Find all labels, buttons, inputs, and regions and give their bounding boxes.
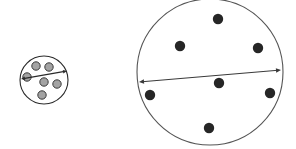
small-circle-group (20, 56, 68, 104)
small-circle-dot-1 (32, 62, 40, 70)
large-circle-group (137, 0, 283, 145)
large-circle-dot-7 (204, 123, 214, 133)
large-circle-dot-5 (145, 90, 155, 100)
diagram-canvas (0, 0, 296, 149)
small-circle-dot-5 (53, 80, 61, 88)
large-circle-dot-2 (175, 41, 185, 51)
large-circle-dot-1 (213, 14, 223, 24)
small-circle-dot-4 (40, 78, 48, 86)
large-circle-dot-3 (253, 43, 263, 53)
small-circle-dot-2 (45, 63, 53, 71)
small-circle-dot-6 (38, 91, 46, 99)
large-circle-dot-6 (265, 88, 275, 98)
figure-svg (0, 0, 296, 149)
large-circle-dot-4 (214, 78, 224, 88)
